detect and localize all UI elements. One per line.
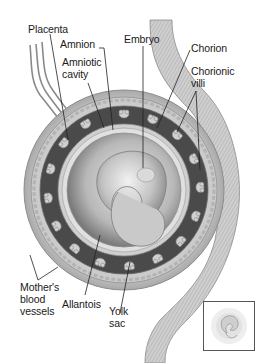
label-placenta: Placenta: [28, 23, 68, 35]
label-yolk-sac: Yolk sac: [109, 305, 128, 329]
label-embryo: Embryo: [124, 33, 160, 45]
label-allantois: Allantois: [62, 298, 101, 310]
label-amnion: Amnion: [60, 38, 95, 50]
label-amniotic-cavity: Amniotic cavity: [62, 56, 101, 80]
label-chorion: Chorion: [191, 42, 227, 54]
label-mothers-blood-vessels: Mother's blood vessels: [20, 281, 59, 317]
label-chorionic-villi: Chorionic villi: [191, 65, 234, 89]
inset-thumbnail: [203, 301, 255, 351]
inset-embryo-illustration: [204, 302, 254, 350]
embryo-diagram: Placenta Amnion Amniotic cavity Embryo C…: [0, 0, 260, 363]
